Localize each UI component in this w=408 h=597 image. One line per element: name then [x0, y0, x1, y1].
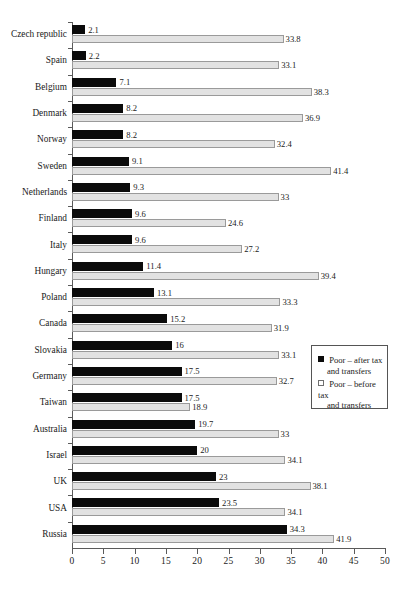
x-axis-tick: [385, 549, 386, 554]
x-axis-tick-label: 0: [70, 556, 75, 566]
bar-value-label: 18.9: [192, 402, 207, 412]
bar-value-label: 31.9: [274, 323, 289, 333]
category-label: Israel: [46, 451, 67, 460]
bar-value-label: 41.4: [333, 166, 348, 176]
bar-group: Finland9.624.6: [72, 206, 385, 232]
bar-before-tax: 34.1: [72, 456, 285, 464]
bar-after-tax: 2.2: [72, 51, 86, 60]
y-axis-tick: [68, 22, 72, 23]
bar-value-label: 33: [281, 192, 290, 202]
chart-legend: Poor – after tax and transfers Poor – be…: [311, 345, 388, 409]
x-axis-tick-label: 20: [192, 556, 202, 566]
bar-after-tax: 9.1: [72, 157, 129, 166]
bar-group: Hungary11.439.4: [72, 259, 385, 285]
bar-before-tax: 39.4: [72, 272, 319, 280]
x-axis-tick: [197, 549, 198, 554]
x-axis-tick: [103, 549, 104, 554]
bar-after-tax: 13.1: [72, 288, 154, 297]
bar-value-label: 20: [200, 445, 209, 455]
bar-group: Canada15.231.9: [72, 311, 385, 337]
y-axis-tick: [68, 48, 72, 49]
bar-value-label: 7.1: [119, 77, 130, 87]
bar-value-label: 9.6: [135, 235, 146, 245]
bar-before-tax: 36.9: [72, 114, 303, 122]
y-axis-tick: [68, 154, 72, 155]
y-axis-tick: [68, 390, 72, 391]
bar-before-tax: 41.4: [72, 167, 331, 175]
x-axis-tick: [72, 549, 73, 554]
bar-after-tax: 2.1: [72, 25, 85, 34]
plot-area: Czech republic2.133.8Spain2.233.1Belgium…: [72, 22, 385, 548]
bar-value-label: 9.1: [132, 156, 143, 166]
x-axis-tick: [135, 549, 136, 554]
bar-group: Russia34.341.9: [72, 522, 385, 548]
bar-group: Australia19.733: [72, 417, 385, 443]
y-axis-tick: [68, 206, 72, 207]
category-label: Slovakia: [34, 346, 67, 355]
category-label: Belgium: [35, 83, 67, 92]
bar-after-tax: 9.6: [72, 235, 132, 244]
bar-group: Netherlands9.333: [72, 180, 385, 206]
y-axis-tick: [68, 522, 72, 523]
bar-after-tax: 34.3: [72, 525, 287, 534]
bar-value-label: 41.9: [336, 534, 351, 544]
category-label: USA: [48, 504, 67, 513]
y-axis-tick: [68, 495, 72, 496]
bar-value-label: 34.1: [287, 507, 302, 517]
bar-after-tax: 17.5: [72, 393, 182, 402]
y-axis-tick: [68, 180, 72, 181]
category-label: Finland: [39, 214, 67, 223]
bar-value-label: 38.1: [313, 481, 328, 491]
bar-group: Poland13.133.3: [72, 285, 385, 311]
bar-after-tax: 11.4: [72, 262, 143, 271]
bar-value-label: 33.1: [281, 350, 296, 360]
y-axis-tick: [68, 285, 72, 286]
x-axis-tick: [229, 549, 230, 554]
bar-before-tax: 31.9: [72, 324, 272, 332]
category-label: Poland: [41, 293, 67, 302]
bar-value-label: 33.1: [281, 60, 296, 70]
bar-before-tax: 41.9: [72, 535, 334, 543]
bar-value-label: 23: [219, 472, 228, 482]
bar-after-tax: 23: [72, 472, 216, 481]
category-label: Netherlands: [22, 188, 67, 197]
legend-label-line1: Poor – after tax: [329, 355, 382, 365]
bar-value-label: 13.1: [157, 288, 172, 298]
bar-before-tax: 32.7: [72, 377, 277, 385]
x-axis-tick-label: 35: [286, 556, 296, 566]
bar-value-label: 9.3: [133, 182, 144, 192]
bar-group: USA23.534.1: [72, 495, 385, 521]
bar-value-label: 34.1: [287, 455, 302, 465]
category-label: Denmark: [32, 109, 67, 118]
category-label: Germany: [32, 372, 67, 381]
y-axis-tick: [68, 417, 72, 418]
bar-value-label: 27.2: [244, 244, 259, 254]
bar-value-label: 34.3: [290, 524, 305, 534]
y-axis-tick: [68, 232, 72, 233]
y-axis-tick: [68, 311, 72, 312]
bar-value-label: 39.4: [321, 271, 336, 281]
x-axis-tick-label: 50: [380, 556, 390, 566]
bar-after-tax: 23.5: [72, 498, 219, 507]
category-label: Taiwan: [40, 398, 67, 407]
bar-group: UK2338.1: [72, 469, 385, 495]
bar-value-label: 9.6: [135, 209, 146, 219]
bar-value-label: 32.7: [279, 376, 294, 386]
bar-before-tax: 18.9: [72, 403, 190, 411]
category-label: Norway: [37, 135, 67, 144]
bar-before-tax: 33.1: [72, 61, 279, 69]
bar-after-tax: 16: [72, 341, 172, 350]
filled-square-icon: [318, 356, 324, 362]
poverty-before-after-tax-bar-chart: Czech republic2.133.8Spain2.233.1Belgium…: [0, 0, 408, 597]
bar-value-label: 36.9: [305, 113, 320, 123]
bar-value-label: 19.7: [198, 419, 213, 429]
x-axis-tick-label: 15: [161, 556, 171, 566]
y-axis-tick: [68, 259, 72, 260]
bar-after-tax: 8.2: [72, 130, 123, 139]
bar-value-label: 8.2: [126, 130, 137, 140]
bar-value-label: 17.5: [185, 393, 200, 403]
legend-label-line2: and transfers: [327, 366, 388, 377]
x-axis-tick-label: 10: [130, 556, 140, 566]
x-axis-tick: [260, 549, 261, 554]
bar-before-tax: 33.1: [72, 351, 279, 359]
